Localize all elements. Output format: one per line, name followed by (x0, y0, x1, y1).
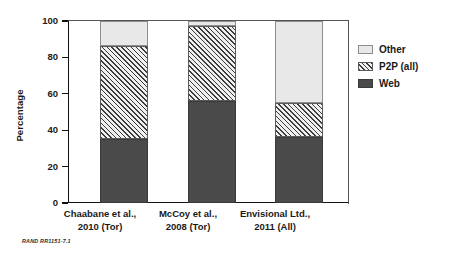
y-axis-tick-80 (62, 57, 68, 58)
legend-label-other: Other (379, 44, 406, 55)
y-axis-tick-label-20: 20 (18, 162, 58, 172)
bar-group-1 (188, 21, 236, 203)
y-axis-tick-60 (62, 93, 68, 94)
legend-item-p2p: P2P (all) (358, 58, 418, 75)
bar-segment-other-0 (100, 21, 148, 46)
bar-segment-other-1 (188, 21, 236, 26)
bar-segment-p2p-0 (100, 46, 148, 139)
plot-right-rule (348, 20, 349, 204)
bar-group-0 (100, 21, 148, 203)
y-axis-tick-label-60: 60 (18, 89, 58, 99)
y-axis-title: Percentage (10, 55, 28, 175)
y-axis-tick-label-100: 100 (18, 16, 58, 26)
legend-swatch-web-icon (358, 79, 373, 88)
legend-swatch-other-icon (358, 45, 373, 54)
stacked-bar-chart-figure: Percentage 020406080100 Chaabane et al.,… (0, 0, 457, 255)
x-axis-label-2: Envisional Ltd., 2011 (All) (221, 208, 329, 233)
bar-segment-web-1 (188, 101, 236, 203)
bar-segment-web-2 (275, 137, 323, 203)
x-axis-label-2-line1: Envisional Ltd., (221, 208, 329, 221)
y-axis-tick-0 (62, 202, 68, 203)
chart-legend: Other P2P (all) Web (358, 41, 418, 92)
legend-item-other: Other (358, 41, 418, 58)
y-axis-tick-label-80: 80 (18, 52, 58, 62)
legend-label-p2p: P2P (all) (379, 61, 418, 72)
bar-segment-p2p-2 (275, 103, 323, 138)
legend-label-web: Web (379, 78, 400, 89)
legend-swatch-p2p-icon (358, 62, 373, 71)
y-axis-tick-label-40: 40 (18, 125, 58, 135)
y-axis-tick-40 (62, 130, 68, 131)
bar-segment-other-2 (275, 21, 323, 103)
bar-segment-p2p-1 (188, 26, 236, 101)
y-axis-tick-100 (62, 20, 68, 21)
legend-item-web: Web (358, 75, 418, 92)
x-axis-label-2-line2: 2011 (All) (221, 221, 329, 234)
bar-segment-web-0 (100, 139, 148, 203)
bar-group-2 (275, 21, 323, 203)
figure-source-note: RAND RR1151-7.1 (22, 238, 71, 244)
y-axis-tick-20 (62, 166, 68, 167)
y-axis-tick-label-0: 0 (18, 198, 58, 208)
